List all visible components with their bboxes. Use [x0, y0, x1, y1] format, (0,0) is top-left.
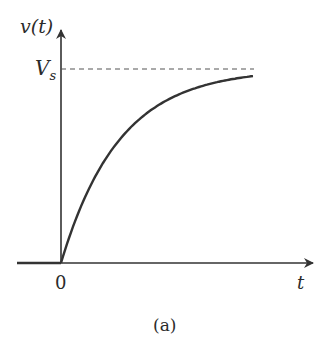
origin-label: 0	[55, 272, 66, 293]
step-response-diagram	[0, 0, 332, 349]
vs-label-main: V	[35, 56, 49, 80]
vs-label-subscript: s	[49, 68, 56, 83]
vs-level-label: Vs	[35, 56, 56, 83]
exponential-rise-curve	[61, 76, 253, 263]
y-axis-label: v(t)	[20, 15, 53, 37]
x-axis-label: t	[297, 272, 304, 293]
figure-caption: (a)	[153, 315, 176, 335]
